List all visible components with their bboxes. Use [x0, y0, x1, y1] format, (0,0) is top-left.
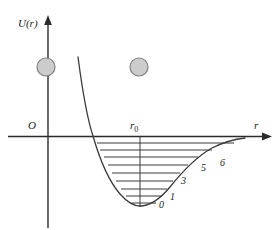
energy-level-label: 3 [181, 176, 186, 186]
origin-label: O [28, 120, 36, 131]
potential-energy-figure: U(r) O r r0 01356 [0, 0, 279, 230]
atom-on-axis [37, 58, 55, 76]
energy-level-label: 6 [220, 158, 225, 168]
y-axis [44, 15, 52, 228]
equilibrium-distance-label: r0 [130, 120, 138, 134]
atom-free [130, 58, 148, 76]
energy-level-label: 1 [170, 192, 175, 202]
x-axis-label: r [254, 120, 258, 131]
y-axis-label: U(r) [18, 18, 38, 29]
diagram-canvas [0, 0, 279, 230]
energy-levels-group [97, 143, 234, 203]
r0-sub: 0 [134, 125, 138, 134]
energy-level-label: 0 [159, 200, 164, 210]
potential-curve [78, 57, 245, 206]
energy-level-label: 5 [201, 163, 206, 173]
atoms-group [37, 58, 148, 76]
